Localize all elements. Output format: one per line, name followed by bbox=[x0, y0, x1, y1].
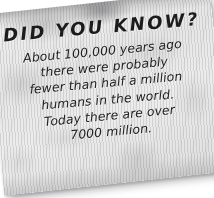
paper-note: DID YOU KNOW? About 100,000 years ago th… bbox=[0, 0, 214, 196]
did-you-know-fact-card: DID YOU KNOW? About 100,000 years ago th… bbox=[0, 0, 214, 198]
note-text-block: DID YOU KNOW? About 100,000 years ago th… bbox=[0, 0, 214, 196]
note-body: About 100,000 years ago there were proba… bbox=[5, 33, 208, 151]
